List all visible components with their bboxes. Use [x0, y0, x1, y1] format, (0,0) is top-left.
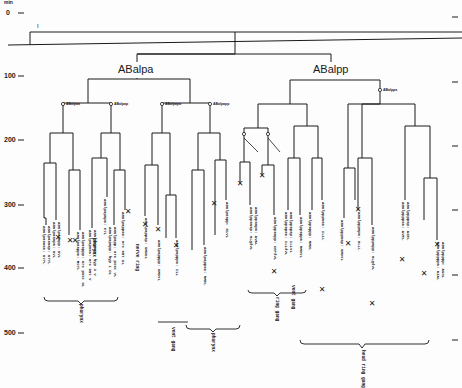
group-label-pharynx: pharynx: [79, 304, 84, 323]
group-label-ring-gang: ring gang: [275, 297, 280, 321]
cell-label: ABalppppaa: AVEL: [401, 202, 405, 240]
node-label: ABalppa: [383, 88, 397, 92]
node-label: ABalpapp: [213, 102, 229, 106]
cell-label: ABalpapapa: e?L: [103, 199, 107, 235]
group-label-pharynx: pharynx: [92, 238, 97, 257]
cell-label: ABalpapapp: hyp 1 DL: [108, 227, 112, 275]
group-label-vent-gang: vent gang: [291, 285, 296, 309]
cell-label: ABalpaaapp: aVL: [57, 222, 61, 258]
axis-tick-300: 300: [4, 201, 16, 208]
group-label-vent-gang: vent gang: [171, 327, 176, 351]
cell-label: ABalppaapa: AVAL: [254, 207, 258, 245]
cell-label: ABalpaaapa: aVL: [52, 222, 56, 258]
node-label: ABalpaa: [66, 102, 80, 106]
cell-label: ABalppppap: ASEL: [406, 202, 410, 240]
axis-tick-0: 0: [6, 9, 10, 16]
cell-label: ABalppapap: IL1VL: [289, 212, 293, 253]
cell-label: ABalppppp: ASGL: [441, 242, 445, 278]
lineage-diagram: ✕ ✕ ✕ ✕ ✕ ✕ ✕ ✕ ✕ ✕ ✕ ✕ ✕ ✕ ✕ ✕ ✕ ✕ m: [0, 0, 462, 388]
cell-label: ABalpaaaaa: a??L: [42, 226, 46, 264]
group-label-ring-gang: nerve ring: [135, 244, 140, 271]
cell-label: ABalpppapa: OLLL: [357, 212, 361, 250]
cell-label: ABalpapppa: I1L: [175, 240, 179, 276]
cell-label: ABalpapp: arc post VL: [113, 227, 117, 277]
axis-unit: min: [4, 0, 13, 5]
lineage-tree: ✕ ✕ ✕ ✕ ✕ ✕ ✕ ✕ ✕ ✕ ✕ ✕ ✕ ✕ ✕ ✕ ✕ ✕: [0, 0, 462, 388]
branch-title-abalpp: ABalpp: [313, 63, 348, 75]
cell-label: ABalpaappa: MC?L: [76, 232, 80, 270]
cell-label: ABalpappaa: arc ant DL: [121, 212, 125, 265]
svg-text:✕: ✕: [237, 179, 244, 188]
cell-label: ABalpaappp: arc post DL: [81, 232, 85, 287]
svg-text:✕: ✕: [155, 225, 162, 234]
axis-tick-500: 500: [4, 329, 16, 336]
cell-label: ABalpppaap: SMDVL: [340, 220, 344, 261]
svg-text:✕: ✕: [421, 269, 428, 278]
cell-label: ABalpappaa: RMEL: [203, 247, 207, 285]
node-label: ABalpap: [114, 102, 128, 106]
svg-text:✕: ✕: [345, 239, 352, 248]
axis-tick-100: 100: [4, 72, 16, 79]
cell-label: ABalppappa: RMDVL: [299, 217, 303, 258]
cell-label: ABalpppppa: AIAL: [436, 242, 440, 280]
cell-label: ABalppappp: RMDL: [308, 212, 312, 250]
group-label-pharynx: pharynx: [211, 333, 216, 352]
cell-label: ABalppapaa: IL1dVL: [284, 212, 288, 255]
svg-text:✕: ✕: [399, 255, 406, 264]
cell-label: ABalpaapp: m1VL: [225, 202, 229, 238]
time-marker: I: [37, 23, 39, 29]
svg-text:✕: ✕: [259, 171, 266, 180]
svg-text:✕: ✕: [125, 207, 132, 216]
group-label-head-ring-gang: head ring gang: [361, 350, 366, 388]
cell-label: ABalpaaaap: a??L: [47, 226, 51, 264]
svg-text:✕: ✕: [271, 267, 278, 276]
cell-label: ABalppaaap: OLQdVL: [249, 207, 253, 250]
cell-label: ABalpappap: SMDDL: [144, 218, 148, 259]
cell-label: ABalpapppp: SMDVL: [157, 240, 161, 281]
cell-label: ABalpppaaa: IL1L: [321, 202, 325, 240]
cell-label: ABalppaapp: CEPdVL: [273, 217, 277, 260]
svg-text:✕: ✕: [211, 199, 218, 208]
branch-title-abalpa: ABalpa: [118, 63, 153, 75]
axis-tick-400: 400: [4, 264, 16, 271]
cell-label: ABalpppapp: OLQdVL: [371, 227, 375, 270]
axis-tick-200: 200: [4, 136, 16, 143]
node-label: ABalpapa: [165, 102, 181, 106]
svg-text:✕: ✕: [319, 285, 326, 294]
svg-text:✕: ✕: [369, 299, 376, 308]
